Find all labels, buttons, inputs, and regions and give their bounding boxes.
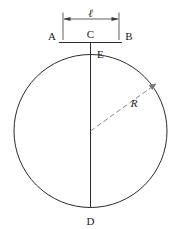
label-point-d: D (87, 215, 95, 227)
radius-arrow-icon (149, 84, 157, 90)
label-radius: R (130, 97, 138, 109)
label-point-a: A (48, 30, 56, 42)
arrow-left-icon (63, 17, 70, 21)
label-chord-length: ℓ (88, 7, 93, 19)
label-point-e: E (97, 48, 104, 60)
label-point-b: B (125, 30, 132, 42)
arrow-right-icon (112, 17, 119, 21)
geometry-diagram: ℓ A B C E D R (0, 0, 182, 229)
radius-dashed-line (91, 87, 153, 132)
label-point-c: C (87, 28, 94, 40)
diagram-canvas: ℓ A B C E D R (0, 0, 182, 229)
radius-indicator (91, 84, 157, 131)
